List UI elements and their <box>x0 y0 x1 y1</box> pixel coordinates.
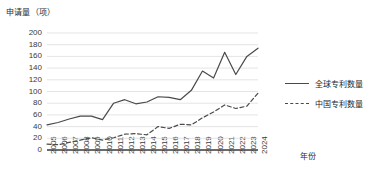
y-tick-80: 80 <box>20 99 42 107</box>
legend-label-china: 中国专利数量 <box>315 98 363 109</box>
legend-swatch-solid-icon <box>285 83 309 84</box>
plot-area <box>47 33 258 150</box>
series-canvas <box>47 33 258 150</box>
x-tick-2024: 2024 <box>261 136 269 154</box>
chart-legend: 全球专利数量 中国专利数量 <box>285 76 363 116</box>
y-tick-200: 200 <box>20 29 42 37</box>
y-tick-40: 40 <box>20 123 42 131</box>
y-axis-title: 申请量（项） <box>6 6 55 17</box>
legend-item-china: 中国专利数量 <box>285 96 363 110</box>
y-tick-60: 60 <box>20 111 42 119</box>
y-tick-160: 160 <box>20 52 42 60</box>
y-tick-140: 140 <box>20 64 42 72</box>
patent-trend-chart: 申请量（项） 年份 200180160140120100806040200 20… <box>0 0 372 184</box>
y-tick-120: 120 <box>20 76 42 84</box>
y-tick-100: 100 <box>20 88 42 96</box>
y-tick-0: 0 <box>20 146 42 154</box>
y-tick-180: 180 <box>20 41 42 49</box>
legend-swatch-dashed-icon <box>285 103 309 104</box>
x-axis-title: 年份 <box>300 150 316 161</box>
series-line-china <box>47 93 258 144</box>
series-line-global <box>47 48 258 125</box>
y-tick-20: 20 <box>20 134 42 142</box>
legend-item-global: 全球专利数量 <box>285 76 363 90</box>
legend-label-global: 全球专利数量 <box>315 78 363 89</box>
